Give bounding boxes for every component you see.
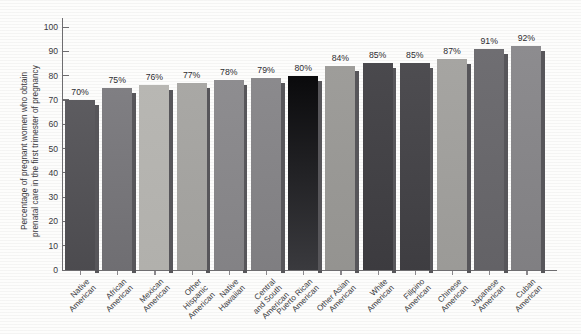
y-axis-tick-labels: 0102030405060708090100	[28, 0, 58, 334]
y-axis-tick-label: 0	[32, 265, 58, 275]
bar[interactable]: 79%	[251, 78, 281, 270]
bar-shadow	[206, 88, 210, 273]
x-axis-tick	[154, 271, 155, 275]
bar-shadow	[541, 51, 545, 273]
bar[interactable]: 75%	[102, 88, 132, 270]
bar-fill	[511, 46, 541, 270]
bar-value-label: 79%	[257, 65, 274, 75]
bar[interactable]: 77%	[177, 83, 207, 270]
bar-shadow	[504, 54, 508, 273]
bar-shadow	[95, 105, 99, 273]
bar[interactable]: 85%	[363, 63, 393, 270]
bar[interactable]: 78%	[214, 80, 244, 270]
bar-fill	[251, 78, 281, 270]
x-axis-tick	[452, 271, 453, 275]
bar-fill	[400, 63, 430, 270]
x-axis-tick	[378, 271, 379, 275]
x-axis-tick	[526, 271, 527, 275]
bar-shadow	[392, 68, 396, 273]
plot-area: 70%75%76%77%78%79%80%84%85%85%87%91%92%	[62, 18, 557, 270]
y-axis-tick-label: 90	[32, 46, 58, 56]
bar-chart: Percentage of pregnant women who obtain …	[0, 0, 581, 334]
bar[interactable]: 84%	[325, 66, 355, 270]
x-axis-tick	[415, 271, 416, 275]
y-axis-tick-label: 10	[32, 241, 58, 251]
x-axis-tick	[229, 271, 230, 275]
x-axis-tick	[192, 271, 193, 275]
y-axis-tick-label: 20	[32, 216, 58, 226]
bar[interactable]: 76%	[139, 85, 169, 270]
bar[interactable]: 70%	[65, 100, 95, 270]
bar-fill	[139, 85, 169, 270]
bar-shadow	[318, 81, 322, 273]
y-axis-tick-label: 100	[32, 22, 58, 32]
bar-shadow	[281, 83, 285, 273]
x-axis-tick	[489, 271, 490, 275]
x-axis-tick	[117, 271, 118, 275]
bar[interactable]: 80%	[288, 76, 318, 270]
y-axis-tick-label: 30	[32, 192, 58, 202]
bar-fill	[102, 88, 132, 270]
x-axis-tick	[80, 271, 81, 275]
bar-value-label: 76%	[146, 72, 163, 82]
bar-fill	[214, 80, 244, 270]
bar-fill	[65, 100, 95, 270]
bar-shadow	[467, 64, 471, 273]
bar-shadow	[429, 68, 433, 273]
bar-fill	[437, 59, 467, 270]
x-axis-tick	[266, 271, 267, 275]
x-axis-tick	[303, 271, 304, 275]
bar-value-label: 85%	[369, 50, 386, 60]
bar-value-label: 75%	[108, 75, 125, 85]
bar-fill	[288, 76, 318, 270]
bar-shadow	[132, 93, 136, 273]
bar-fill	[363, 63, 393, 270]
x-axis-tick	[340, 271, 341, 275]
bar-value-label: 84%	[332, 53, 349, 63]
bar[interactable]: 92%	[511, 46, 541, 270]
bar-shadow	[243, 85, 247, 273]
bar-value-label: 87%	[443, 46, 460, 56]
bar-fill	[325, 66, 355, 270]
bar-fill	[177, 83, 207, 270]
y-axis-tick-label: 70	[32, 95, 58, 105]
bar-value-label: 80%	[294, 63, 311, 73]
y-axis-tick-label: 60	[32, 119, 58, 129]
y-axis-tick-label: 80	[32, 71, 58, 81]
bar[interactable]: 85%	[400, 63, 430, 270]
bar-value-label: 77%	[183, 70, 200, 80]
y-axis-tick-label: 50	[32, 144, 58, 154]
bar-shadow	[169, 90, 173, 273]
bar-value-label: 85%	[406, 50, 423, 60]
bar[interactable]: 87%	[437, 59, 467, 270]
bar-fill	[474, 49, 504, 270]
bar[interactable]: 91%	[474, 49, 504, 270]
bar-value-label: 91%	[480, 36, 497, 46]
bar-value-label: 78%	[220, 67, 237, 77]
bar-value-label: 92%	[518, 33, 535, 43]
bar-shadow	[355, 71, 359, 273]
y-axis-tick-label: 40	[32, 168, 58, 178]
bar-value-label: 70%	[71, 87, 88, 97]
x-axis-line	[62, 270, 557, 271]
